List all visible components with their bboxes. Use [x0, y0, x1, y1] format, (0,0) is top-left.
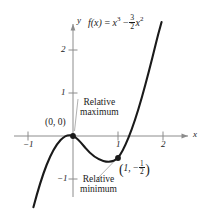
formula-term2-exponent: 2	[140, 15, 144, 23]
coord-y-sign: −	[133, 163, 138, 173]
y-tick-label-2: 2	[61, 45, 66, 54]
relative-maximum-point	[70, 133, 76, 139]
minimum-point-coordinate-label: (1, −12)	[119, 160, 150, 176]
formula-arg: (x)	[91, 17, 102, 28]
coord-y-fraction: 12	[139, 160, 145, 176]
y-tick-label-neg1: −1	[57, 174, 68, 183]
x-axis	[14, 134, 188, 139]
relative-maximum-line2: maximum	[80, 108, 119, 118]
coord-y-numerator: 1	[139, 160, 145, 167]
coord-x-value: 1,	[124, 163, 131, 173]
formula-term1-exponent: 3	[117, 15, 121, 23]
relative-maximum-annotation: Relative maximum	[80, 98, 119, 118]
relative-minimum-annotation: Relative minimum	[80, 175, 117, 195]
formula-frac-denominator: 2	[129, 22, 135, 31]
formula-fraction: 32	[129, 14, 135, 31]
x-tick-label-2: 2	[161, 140, 166, 149]
function-formula: f(x) = x3 −32x2	[88, 14, 143, 31]
x-tick-label-1: 1	[116, 140, 121, 149]
coord-paren-close: )	[145, 162, 150, 177]
formula-minus: −	[123, 17, 129, 28]
formula-frac-numerator: 3	[129, 14, 135, 22]
formula-equals: =	[104, 17, 110, 28]
y-axis-label: y	[77, 16, 81, 25]
origin-point-label: (0, 0)	[45, 118, 66, 128]
figure-container: f(x) = x3 −32x2 x y −1 1 2 2 1 −1 (0, 0)…	[0, 0, 210, 214]
y-tick-label-1: 1	[61, 88, 66, 97]
relative-minimum-line2: minimum	[80, 185, 117, 195]
x-axis-label: x	[193, 130, 197, 139]
coord-y-denominator: 2	[139, 167, 145, 175]
x-tick-label-neg1: −1	[23, 140, 34, 149]
